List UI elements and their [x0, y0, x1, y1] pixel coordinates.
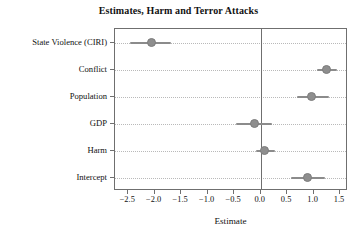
gridline	[115, 124, 346, 125]
y-axis-tick	[110, 42, 114, 43]
y-axis-tick	[110, 123, 114, 124]
x-axis-tick-label: 0.0	[254, 195, 264, 204]
x-axis-tick-label: −2.0	[146, 195, 161, 204]
y-axis-tick	[110, 150, 114, 151]
x-axis-tick	[339, 190, 340, 194]
chart-title: Estimates, Harm and Terror Attacks	[0, 5, 357, 16]
zero-reference-line	[261, 29, 262, 189]
plot-inner	[115, 29, 346, 189]
x-axis-tick	[127, 190, 128, 194]
y-axis-tick-label: Conflict	[4, 64, 114, 73]
y-axis-tick-label: State Violence (CIRI)	[4, 37, 114, 46]
x-axis-tick	[233, 190, 234, 194]
estimate-point	[250, 119, 259, 128]
y-axis-tick-label: Harm	[4, 145, 114, 154]
x-axis-title: Estimate	[114, 216, 347, 226]
y-axis-labels: State Violence (CIRI)ConflictPopulationG…	[0, 28, 114, 190]
x-axis-tick	[180, 190, 181, 194]
estimate-point	[303, 173, 312, 182]
x-axis-tick	[207, 190, 208, 194]
x-axis-tick	[154, 190, 155, 194]
x-axis-tick	[286, 190, 287, 194]
x-axis-tick-label: 1.0	[307, 195, 317, 204]
y-axis-tick	[110, 177, 114, 178]
y-axis-tick-label: Population	[4, 91, 114, 100]
y-axis-tick	[110, 96, 114, 97]
estimate-point	[307, 92, 316, 101]
y-axis-tick	[110, 69, 114, 70]
estimate-point	[260, 146, 269, 155]
y-axis-tick-label: GDP	[4, 118, 114, 127]
gridline	[115, 70, 346, 71]
x-axis-tick-label: −0.5	[226, 195, 241, 204]
coefficient-plot-figure: Estimates, Harm and Terror Attacks State…	[0, 0, 357, 234]
x-axis-tick	[260, 190, 261, 194]
x-axis-tick	[313, 190, 314, 194]
gridline	[115, 151, 346, 152]
x-axis-tick-label: 1.5	[334, 195, 344, 204]
x-axis-tick-label: −1.5	[173, 195, 188, 204]
plot-area	[114, 28, 347, 190]
estimate-point	[322, 65, 331, 74]
y-axis-tick-label: Intercept	[4, 172, 114, 181]
x-axis-tick-label: 0.5	[281, 195, 291, 204]
estimate-point	[147, 38, 156, 47]
x-axis-tick-label: −2.5	[120, 195, 135, 204]
x-axis-tick-label: −1.0	[199, 195, 214, 204]
